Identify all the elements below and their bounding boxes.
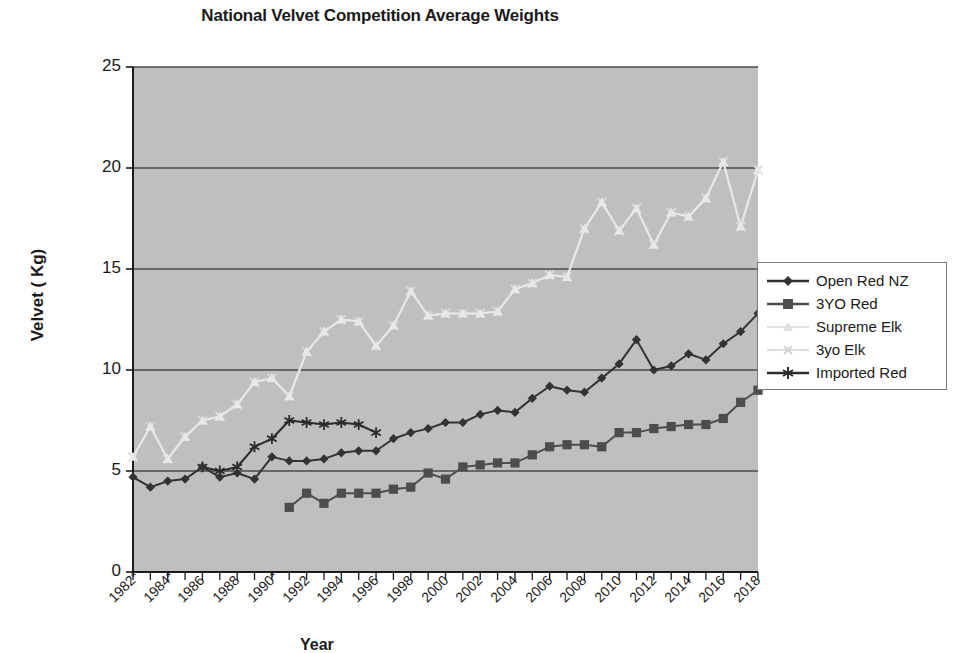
- plot-background: [133, 67, 758, 572]
- legend-symbol-3yo-red: [765, 296, 811, 312]
- legend-symbol-imported-red: [765, 365, 811, 381]
- y-tick-label: 10: [75, 359, 121, 379]
- legend-label: 3YO Red: [816, 295, 878, 312]
- legend-label: Open Red NZ: [816, 272, 909, 289]
- chart-container: National Velvet Competition Average Weig…: [0, 0, 970, 653]
- legend-item[interactable]: 3YO Red: [758, 292, 946, 315]
- legend-item[interactable]: 3yo Elk: [758, 338, 946, 361]
- legend-item[interactable]: Open Red NZ: [758, 269, 946, 292]
- y-tick-label: 20: [75, 157, 121, 177]
- y-tick-label: 15: [75, 258, 121, 278]
- y-tick-label: 25: [75, 56, 121, 76]
- legend-item[interactable]: Imported Red: [758, 361, 946, 384]
- legend-label: 3yo Elk: [816, 341, 865, 358]
- legend-symbol-3yo-elk: [765, 342, 811, 358]
- legend-item[interactable]: Supreme Elk: [758, 315, 946, 338]
- legend-label: Supreme Elk: [816, 318, 902, 335]
- legend-label: Imported Red: [816, 364, 907, 381]
- y-tick-label: 5: [75, 460, 121, 480]
- y-tick-label: 0: [75, 561, 121, 581]
- legend-symbol-open-red-nz: [765, 273, 811, 289]
- legend-symbol-supreme-elk: [765, 319, 811, 335]
- chart-legend: Open Red NZ 3YO Red Supreme Elk 3yo Elk: [757, 262, 947, 390]
